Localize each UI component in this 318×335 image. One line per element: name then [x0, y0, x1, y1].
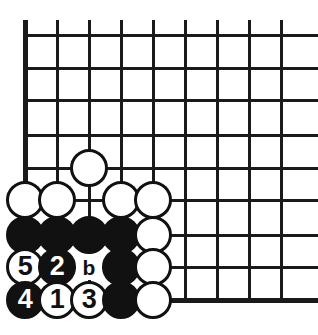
grid-line-horizontal-2	[25, 99, 318, 102]
grid-line-vertical-5	[184, 20, 187, 300]
stone-move-number: 4	[18, 286, 33, 313]
go-board-diagram: 52413 b	[0, 0, 318, 335]
grid-line-horizontal-4	[25, 167, 318, 170]
stone-move-number: 2	[50, 253, 65, 280]
white-stone	[38, 181, 76, 219]
point-label-b: b	[76, 254, 102, 280]
grid-line-vertical-6	[216, 20, 219, 300]
grid-line-horizontal-3	[25, 134, 318, 137]
white-stone	[70, 149, 108, 187]
stone-move-number: 3	[82, 286, 97, 313]
stone-move-number: 5	[18, 253, 33, 280]
white-stone	[134, 181, 172, 219]
grid-line-vertical-7	[248, 20, 251, 300]
grid-line-horizontal-0	[25, 34, 318, 37]
grid-line-vertical-8	[280, 20, 283, 300]
stone-move-number: 1	[50, 286, 65, 313]
grid-line-horizontal-1	[25, 67, 318, 70]
white-stone	[134, 281, 172, 319]
